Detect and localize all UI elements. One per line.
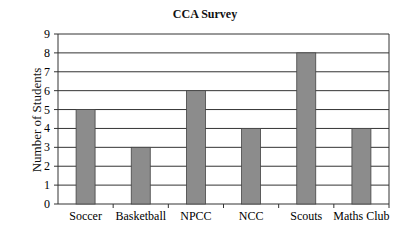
- y-tick-label: 4: [44, 121, 50, 135]
- bar: [352, 128, 371, 204]
- x-tick-label: Maths Club: [333, 209, 389, 223]
- y-tick-label: 2: [44, 159, 50, 173]
- x-tick-label: Soccer: [69, 209, 102, 223]
- x-tick-label: NCC: [239, 209, 264, 223]
- y-tick-label: 9: [44, 27, 50, 41]
- bar: [297, 53, 316, 204]
- y-tick-label: 3: [44, 140, 50, 154]
- bar: [186, 91, 205, 204]
- x-tick-label: NPCC: [180, 209, 211, 223]
- bar: [131, 147, 150, 204]
- x-tick-label: Basketball: [115, 209, 166, 223]
- bar-chart: 0123456789SoccerBasketballNPCCNCCScoutsM…: [0, 0, 410, 236]
- y-tick-label: 8: [44, 46, 50, 60]
- bar: [76, 110, 95, 204]
- x-tick-label: Scouts: [290, 209, 322, 223]
- y-tick-label: 5: [44, 103, 50, 117]
- y-tick-label: 6: [44, 84, 50, 98]
- bar: [242, 128, 261, 204]
- y-tick-label: 1: [44, 178, 50, 192]
- y-tick-label: 0: [44, 197, 50, 211]
- y-tick-label: 7: [44, 65, 50, 79]
